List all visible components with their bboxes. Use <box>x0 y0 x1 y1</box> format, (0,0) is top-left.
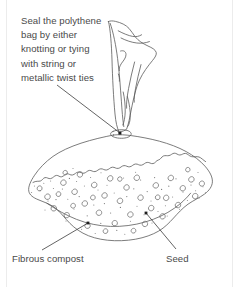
leader-lines-group <box>42 85 176 250</box>
leader-line-seal <box>57 85 120 133</box>
seed-shape <box>131 228 136 233</box>
seed-shape <box>168 175 174 180</box>
seed-shape <box>189 177 195 182</box>
seed-shape <box>91 195 96 200</box>
seed-shape <box>61 180 67 185</box>
seed-shape <box>37 186 42 191</box>
seed-shape <box>102 193 107 198</box>
seed-shape <box>117 198 123 203</box>
seed-shape <box>96 210 102 215</box>
seed-shape <box>45 194 51 200</box>
seed-shape <box>72 189 78 194</box>
leader-endpoint-seed <box>145 212 148 215</box>
leader-endpoint-seal <box>118 132 121 135</box>
seed-shape <box>107 176 113 181</box>
seed-shape <box>134 175 140 180</box>
label-seed: Seed <box>166 252 189 266</box>
compost-speckle-group <box>31 168 206 235</box>
seed-shapes-group <box>37 167 204 233</box>
fibrous-compost-surface-line <box>33 153 206 182</box>
seed-shape <box>163 195 168 200</box>
seed-shape <box>186 167 190 172</box>
seed-shape <box>118 177 122 182</box>
seed-shape <box>91 182 97 187</box>
compost-bag-body-outline <box>29 135 213 241</box>
leader-endpoint-markers-group <box>87 132 148 225</box>
seed-shape <box>56 192 61 197</box>
callout-seal-instruction: Seal the polythene bag by either knottin… <box>21 14 131 85</box>
seed-shape <box>128 212 134 217</box>
leader-endpoint-fibrous-compost <box>87 222 90 225</box>
seed-shape <box>199 181 204 186</box>
seed-shape <box>155 195 160 200</box>
seed-shape <box>153 183 159 188</box>
seed-shape <box>103 229 108 234</box>
label-fibrous-compost: Fibrous compost <box>12 252 84 266</box>
seed-shape <box>124 185 129 190</box>
seed-shape <box>180 186 185 191</box>
seed-bag-diagram: Seal the polythene bag by either knottin… <box>0 0 242 287</box>
seed-shape <box>71 203 76 208</box>
seed-shape <box>192 193 198 198</box>
polythene-wrinkle-long-d <box>134 65 141 103</box>
seed-shape <box>112 220 117 225</box>
seed-shape <box>148 205 154 210</box>
seed-shape <box>138 195 143 200</box>
seed-shape <box>82 201 88 206</box>
leader-line-fibrous-compost <box>42 223 88 250</box>
